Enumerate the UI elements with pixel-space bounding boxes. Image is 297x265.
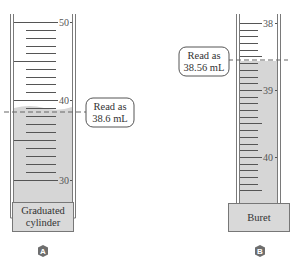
cylinder-liquid bbox=[14, 106, 72, 217]
cylinder-label-box: Graduated cylinder bbox=[13, 203, 74, 232]
buret-callout-value: 38.56 mL bbox=[184, 62, 225, 73]
buret-liquid bbox=[240, 61, 277, 204]
cylinder-label-line2: cylinder bbox=[26, 217, 61, 228]
cylinder-callout-line1: Read as bbox=[94, 101, 127, 112]
buret-label-box: Buret bbox=[229, 204, 290, 232]
buret-tick-label-38: 38 bbox=[263, 18, 273, 29]
buret-tick-label-40: 40 bbox=[263, 152, 273, 163]
buret-label: Buret bbox=[247, 212, 270, 223]
graduated-cylinder: 50 40 30 Read as 38.6 mL Graduated cylin… bbox=[4, 14, 134, 257]
badge-b-label: B bbox=[257, 247, 263, 256]
badge-a-label: A bbox=[40, 247, 46, 256]
cylinder-tick-label-50: 50 bbox=[59, 17, 69, 28]
buret: 38 39 40 Read as 38.56 mL Buret B bbox=[179, 14, 290, 257]
cylinder-callout-value: 38.6 mL bbox=[92, 113, 128, 124]
badge-a: A bbox=[38, 245, 48, 257]
measurement-diagram: 50 40 30 Read as 38.6 mL Graduated cylin… bbox=[0, 0, 297, 265]
buret-reading-callout: Read as 38.56 mL bbox=[179, 47, 229, 76]
buret-callout-line1: Read as bbox=[188, 50, 221, 61]
cylinder-label-line1: Graduated bbox=[21, 205, 65, 216]
cylinder-reading-callout: Read as 38.6 mL bbox=[86, 98, 134, 127]
badge-b: B bbox=[255, 245, 265, 257]
cylinder-tick-label-30: 30 bbox=[59, 175, 69, 186]
buret-tick-label-39: 39 bbox=[263, 85, 273, 96]
cylinder-tick-label-40: 40 bbox=[59, 95, 69, 106]
